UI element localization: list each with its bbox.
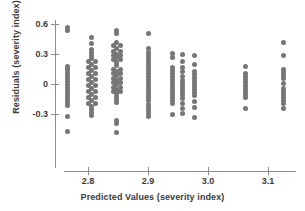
- data-point: [281, 53, 286, 58]
- data-point: [65, 103, 70, 108]
- data-point: [180, 106, 185, 111]
- x-axis-label: Predicted Values (severity index): [0, 192, 305, 202]
- data-point: [243, 64, 248, 69]
- residual-scatter-plot: Residuals (severity index) 0.60.30-0.3 2…: [0, 0, 305, 211]
- data-point: [146, 31, 151, 36]
- data-point: [114, 130, 119, 135]
- data-point: [65, 129, 70, 134]
- data-point: [180, 59, 185, 64]
- data-point: [65, 114, 70, 119]
- data-point: [192, 105, 197, 110]
- data-point: [114, 121, 119, 126]
- data-point: [89, 41, 94, 46]
- data-point: [89, 35, 94, 40]
- data-point: [281, 40, 286, 45]
- data-point: [180, 96, 185, 101]
- data-point: [192, 53, 197, 58]
- data-point: [281, 76, 286, 81]
- data-point: [170, 101, 175, 106]
- data-point: [114, 100, 119, 105]
- data-point: [281, 106, 286, 111]
- data-point: [170, 112, 175, 117]
- data-point: [281, 81, 286, 86]
- data-point: [180, 52, 185, 57]
- data-points-layer: [0, 0, 305, 211]
- data-point: [243, 95, 248, 100]
- data-point: [243, 106, 248, 111]
- data-point: [89, 113, 94, 118]
- data-point: [170, 55, 175, 60]
- data-point: [192, 93, 197, 98]
- data-point: [146, 114, 151, 119]
- data-point: [192, 62, 197, 67]
- data-point: [65, 28, 70, 33]
- data-point: [114, 31, 119, 36]
- data-point: [192, 115, 197, 120]
- data-point: [192, 99, 197, 104]
- data-point: [180, 111, 185, 116]
- data-point: [281, 101, 286, 106]
